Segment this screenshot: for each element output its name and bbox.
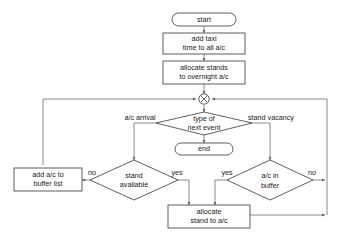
edge-label-stand-available-yes: yes bbox=[171, 168, 183, 177]
node-start: start bbox=[172, 13, 236, 26]
type-of-next-event-label-line2: next event bbox=[187, 123, 220, 132]
node-merge bbox=[199, 94, 209, 104]
node-allocate-stand: allocate stand to a/c bbox=[168, 205, 250, 228]
flowchart-canvas: start add taxi time to all a/c allocate … bbox=[0, 0, 337, 243]
add-taxi-label-line2: time to all a/c bbox=[183, 43, 226, 52]
ac-in-buffer-label-line2: buffer bbox=[261, 181, 280, 190]
add-ac-buffer-label-line2: buffer list bbox=[33, 179, 62, 188]
node-stand-available: stand available bbox=[90, 160, 178, 200]
stand-available-label-line2: available bbox=[120, 180, 148, 189]
allocate-stands-label-line2: to overnight a/c bbox=[179, 72, 229, 81]
node-add-taxi: add taxi time to all a/c bbox=[163, 33, 245, 54]
add-ac-buffer-label-line1: add a/c to bbox=[32, 170, 64, 179]
edge-ac-arrival-to-stand-available bbox=[134, 123, 172, 160]
allocate-stand-label-line1: allocate bbox=[197, 207, 222, 216]
edge-label-buffer-no: no bbox=[308, 168, 316, 177]
node-end: end bbox=[175, 143, 233, 155]
allocate-stand-label-line2: stand to a/c bbox=[190, 216, 228, 225]
edge-label-stand-vacancy: stand vacancy bbox=[248, 113, 294, 122]
edge-label-stand-available-no: no bbox=[88, 168, 96, 177]
node-ac-in-buffer: a/c in buffer bbox=[227, 160, 313, 200]
edge-label-ac-arrival: a/c arrival bbox=[124, 113, 156, 122]
end-label: end bbox=[198, 144, 210, 153]
edge-label-buffer-yes: yes bbox=[221, 168, 233, 177]
node-allocate-stands: allocate stands to overnight a/c bbox=[163, 61, 245, 84]
edge-stand-vacancy-to-ac-in-buffer bbox=[236, 123, 270, 160]
flowchart-diagram: start add taxi time to all a/c allocate … bbox=[0, 0, 337, 243]
start-label: start bbox=[197, 15, 211, 24]
node-type-of-next-event: type of next event bbox=[156, 112, 252, 135]
allocate-stands-label-line1: allocate stands bbox=[180, 63, 228, 72]
ac-in-buffer-label-line1: a/c in bbox=[261, 171, 278, 180]
node-add-ac-buffer: add a/c to buffer list bbox=[14, 168, 82, 191]
edge-left-feedback-loop bbox=[43, 99, 196, 165]
